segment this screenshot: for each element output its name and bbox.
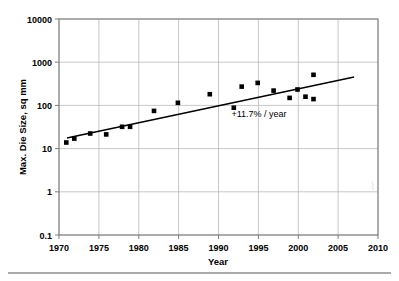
x-axis-tick-labels: 1970 1975 1980 1985 1990 1995 2000 2005 …	[49, 243, 388, 253]
y-tick-label: 10000	[27, 15, 52, 25]
x-tick-label: 1985	[169, 243, 189, 253]
y-tick-label: 0.1	[39, 231, 52, 241]
x-tick-label: 1995	[248, 243, 268, 253]
y-axis-title: Max. Die Size, sq mm	[17, 79, 28, 175]
data-point	[152, 109, 157, 114]
y-axis-tick-labels: 10000 1000 100 10 1 0.1	[27, 15, 52, 241]
y-tick-label: 1	[47, 187, 52, 197]
x-tick-label: 2010	[368, 243, 388, 253]
data-point	[239, 84, 244, 89]
data-point	[64, 140, 69, 145]
watermark-artifact: ⌇	[370, 180, 375, 192]
data-point	[128, 125, 133, 130]
x-tick-label: 1970	[49, 243, 69, 253]
y-tick-label: 10	[42, 144, 52, 154]
data-point	[88, 131, 93, 136]
x-tick-label: 1980	[129, 243, 149, 253]
x-tickmarks	[59, 235, 378, 239]
y-tickmarks	[55, 19, 59, 235]
die-size-scatter-chart: 10000 1000 100 10 1 0.1 1970 1975 1980 1…	[0, 0, 399, 281]
x-tick-label: 1990	[208, 243, 228, 253]
data-point	[311, 73, 316, 78]
chart-figure: 10000 1000 100 10 1 0.1 1970 1975 1980 1…	[0, 0, 399, 281]
data-point	[295, 87, 300, 92]
data-point	[120, 125, 125, 130]
data-point	[255, 81, 260, 86]
x-tick-label: 2005	[328, 243, 348, 253]
growth-rate-annotation: +11.7% / year	[231, 109, 286, 119]
data-point	[271, 88, 276, 93]
data-point	[72, 136, 77, 141]
x-tick-label: 1975	[89, 243, 109, 253]
x-tick-label: 2000	[288, 243, 308, 253]
y-tick-label: 100	[37, 101, 52, 111]
data-point	[208, 92, 213, 97]
data-point	[311, 97, 316, 102]
y-tick-label: 1000	[32, 58, 52, 68]
data-point	[287, 96, 292, 101]
data-point	[104, 132, 109, 137]
x-axis-title: Year	[208, 256, 228, 267]
data-point	[303, 94, 308, 99]
data-point	[176, 101, 181, 106]
